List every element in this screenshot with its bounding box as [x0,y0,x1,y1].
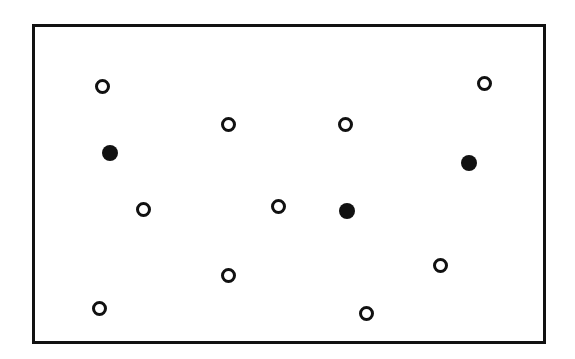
filled-circle-icon [339,203,355,219]
open-circle-icon [338,117,353,132]
open-circle-icon [92,301,107,316]
open-circle-icon [359,306,374,321]
diagram-frame [32,24,546,344]
filled-circle-icon [102,145,118,161]
open-circle-icon [136,202,151,217]
filled-circle-icon [461,155,477,171]
open-circle-icon [95,79,110,94]
open-circle-icon [221,117,236,132]
open-circle-icon [477,76,492,91]
open-circle-icon [271,199,286,214]
open-circle-icon [433,258,448,273]
open-circle-icon [221,268,236,283]
